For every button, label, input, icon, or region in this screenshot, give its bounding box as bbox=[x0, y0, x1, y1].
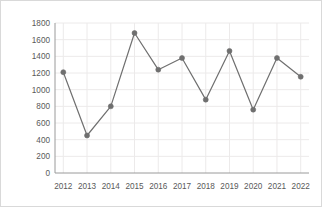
data-point-marker[interactable] bbox=[274, 56, 279, 61]
y-axis-tick-label: 600 bbox=[36, 119, 50, 128]
y-axis-tick-label: 1600 bbox=[32, 36, 51, 45]
data-point-marker[interactable] bbox=[180, 56, 185, 61]
x-axis-tick-label: 2022 bbox=[292, 182, 311, 191]
data-point-marker[interactable] bbox=[203, 97, 208, 102]
x-axis-tick-label: 2013 bbox=[78, 182, 97, 191]
x-axis-tick-label: 2016 bbox=[149, 182, 168, 191]
x-axis-tick-label: 2017 bbox=[173, 182, 192, 191]
data-point-marker[interactable] bbox=[227, 48, 232, 53]
x-axis-tick-label: 2012 bbox=[54, 182, 73, 191]
y-axis-tick-label: 1400 bbox=[32, 52, 51, 61]
line-chart-plot: 0200400600800100012001400160018002012201… bbox=[1, 1, 322, 207]
x-axis-tick-label: 2019 bbox=[220, 182, 239, 191]
data-point-marker[interactable] bbox=[85, 133, 90, 138]
x-axis-tick-label: 2021 bbox=[268, 182, 287, 191]
y-axis-tick-label: 0 bbox=[45, 169, 50, 178]
data-point-marker[interactable] bbox=[61, 70, 66, 75]
x-axis-tick-label: 2020 bbox=[244, 182, 263, 191]
y-axis-tick-label: 800 bbox=[36, 102, 50, 111]
chart-figure: 0200400600800100012001400160018002012201… bbox=[0, 0, 322, 207]
x-axis-tick-label: 2014 bbox=[102, 182, 121, 191]
y-axis-tick-label: 200 bbox=[36, 152, 50, 161]
data-point-marker[interactable] bbox=[156, 67, 161, 72]
data-point-marker[interactable] bbox=[132, 31, 137, 36]
data-point-marker[interactable] bbox=[298, 74, 303, 79]
x-axis-tick-label: 2015 bbox=[125, 182, 144, 191]
y-axis-tick-label: 1200 bbox=[32, 69, 51, 78]
data-point-marker[interactable] bbox=[108, 104, 113, 109]
data-point-marker[interactable] bbox=[251, 107, 256, 112]
y-axis-tick-label: 1000 bbox=[32, 86, 51, 95]
y-axis-tick-label: 1800 bbox=[32, 19, 51, 28]
y-axis-tick-label: 400 bbox=[36, 136, 50, 145]
x-axis-tick-label: 2018 bbox=[197, 182, 216, 191]
